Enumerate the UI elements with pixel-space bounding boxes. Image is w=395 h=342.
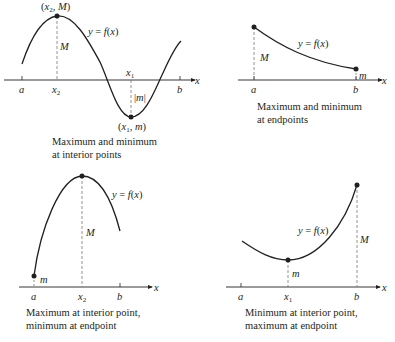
min-point-label: (x1, m) (118, 121, 147, 134)
caption-line: Minimum at interior point, (245, 306, 358, 319)
min-point (32, 274, 37, 279)
tick-label-b: b (354, 291, 359, 302)
panel-max-interior-min-endpoint: x y = f(x) M m a x2 b (19, 174, 159, 305)
max-height-label: M (59, 41, 70, 52)
min-height-label: m (292, 268, 300, 279)
curve-label: y = f(x) (297, 225, 329, 237)
max-point (252, 25, 257, 30)
panel-interior-both: x (x2, M) y = f(x) M a x2 x1 b |m| (x1, … (4, 1, 200, 134)
min-height-label: |m| (134, 92, 146, 103)
caption-line: Maximum at interior point, (26, 306, 140, 319)
curve-label: y = f(x) (111, 189, 143, 201)
caption-panel-4: Minimum at interior point, maximum at en… (245, 306, 358, 332)
min-point (129, 115, 134, 120)
curve-label: y = f(x) (87, 26, 119, 38)
x-axis-label: x (194, 75, 200, 86)
tick-label-b: b (117, 291, 122, 302)
tick-label-x2: x2 (51, 84, 61, 97)
panel-min-interior-max-endpoint: x y = f(x) M m a x1 b (226, 183, 387, 305)
caption-line: maximum at endpoint (245, 319, 358, 332)
tick-label-a: a (31, 291, 36, 302)
extreme-values-diagram: x (x2, M) y = f(x) M a x2 x1 b |m| (x1, … (0, 0, 395, 342)
x-axis-label: x (381, 282, 387, 293)
max-height-label: M (85, 227, 96, 238)
tick-label-x1: x1 (283, 291, 293, 304)
x-axis-label: x (381, 75, 387, 86)
caption-line: at interior points (52, 148, 157, 161)
min-point (354, 67, 359, 72)
tick-label-a: a (251, 84, 256, 95)
curve-label: y = f(x) (297, 38, 329, 50)
tick-label-x2: x2 (77, 291, 87, 304)
tick-label-b: b (353, 84, 358, 95)
x-axis-label: x (153, 282, 159, 293)
caption-line: minimum at endpoint (26, 319, 140, 332)
caption-line: Maximum and minimum (52, 135, 157, 148)
min-height-label: m (40, 274, 48, 285)
caption-line: at endpoints (257, 113, 362, 126)
tick-label-b: b (177, 84, 182, 95)
caption-panel-1: Maximum and minimum at interior points (52, 135, 157, 161)
max-point (355, 183, 360, 188)
max-height-label: M (259, 52, 270, 63)
max-point (80, 174, 85, 179)
caption-panel-3: Maximum at interior point, minimum at en… (26, 306, 140, 332)
min-height-label: m (359, 70, 367, 81)
caption-line: Maximum and minimum (257, 100, 362, 113)
panel-endpoints-both: x y = f(x) M m a b (238, 25, 387, 96)
tick-label-a: a (238, 291, 243, 302)
max-point-label: (x2, M) (41, 1, 71, 14)
tick-label-a: a (19, 84, 24, 95)
min-point (286, 258, 291, 263)
caption-panel-2: Maximum and minimum at endpoints (257, 100, 362, 126)
max-height-label: M (359, 234, 370, 245)
max-point (55, 14, 60, 19)
curve (34, 176, 120, 276)
tick-label-x1: x1 (125, 67, 135, 80)
curve (242, 185, 357, 260)
